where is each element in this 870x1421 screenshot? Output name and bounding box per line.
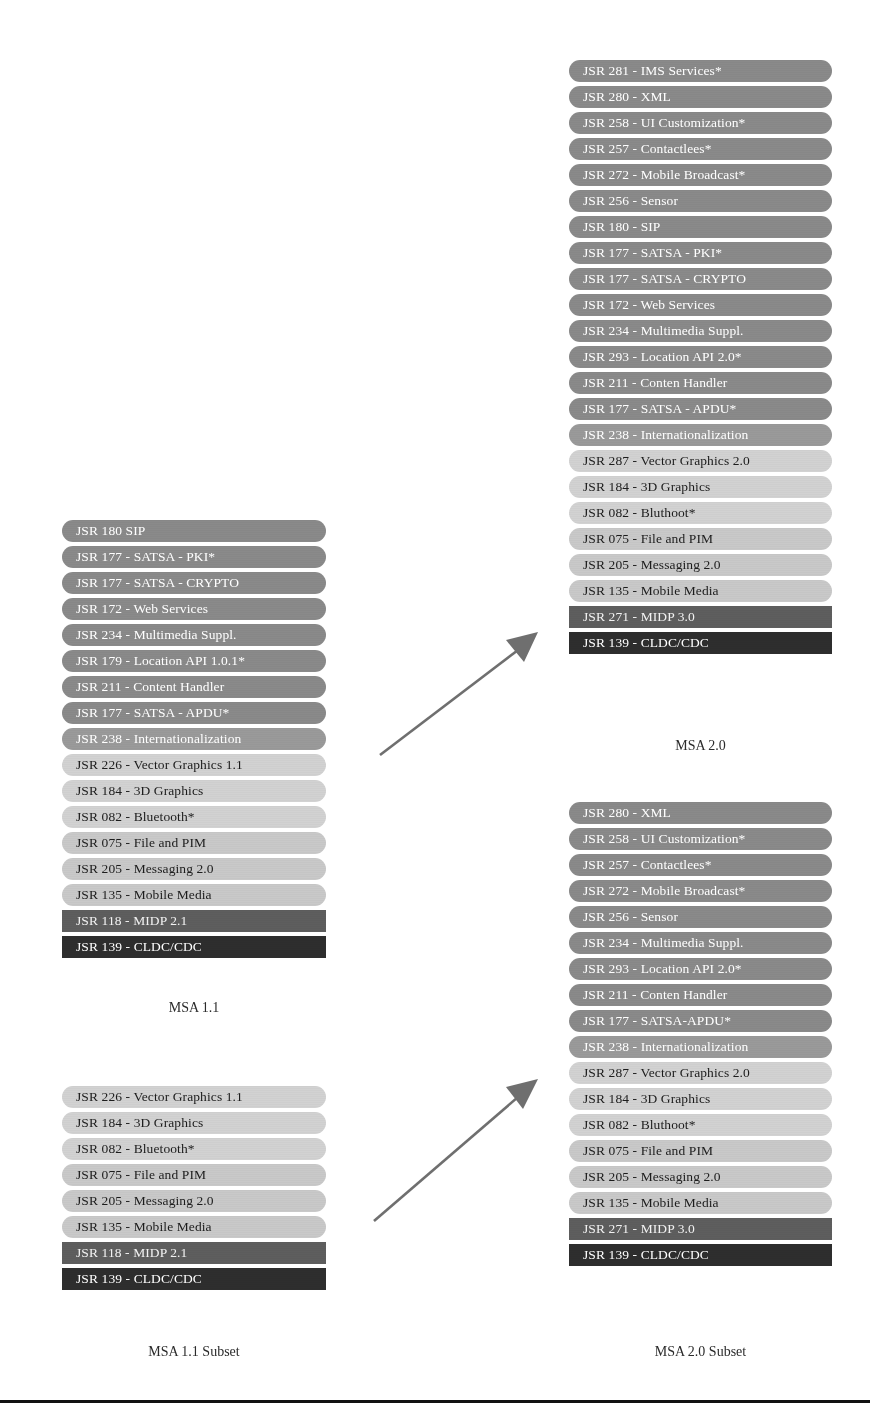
- caption-msa-11: MSA 1.1: [62, 1000, 326, 1016]
- jsr-bar[interactable]: JSR 205 - Messaging 2.0: [569, 1166, 832, 1188]
- jsr-bar[interactable]: JSR 082 - Bluetooth*: [62, 1138, 326, 1160]
- jsr-bar[interactable]: JSR 226 - Vector Graphics 1.1: [62, 754, 326, 776]
- jsr-bar[interactable]: JSR 177 - SATSA - PKI*: [569, 242, 832, 264]
- jsr-bar-label: JSR 135 - Mobile Media: [76, 1219, 212, 1235]
- jsr-bar[interactable]: JSR 238 - Internationalization: [569, 1036, 832, 1058]
- jsr-bar[interactable]: JSR 258 - UI Customization*: [569, 828, 832, 850]
- jsr-bar-label: JSR 256 - Sensor: [583, 909, 678, 925]
- jsr-bar[interactable]: JSR 287 - Vector Graphics 2.0: [569, 1062, 832, 1084]
- jsr-bar[interactable]: JSR 075 - File and PIM: [62, 832, 326, 854]
- jsr-bar-label: JSR 238 - Internationalization: [76, 731, 241, 747]
- jsr-bar-label: JSR 177 - SATSA - PKI*: [583, 245, 722, 261]
- jsr-bar[interactable]: JSR 139 - CLDC/CDC: [62, 936, 326, 958]
- jsr-bar-label: JSR 184 - 3D Graphics: [76, 1115, 203, 1131]
- jsr-bar[interactable]: JSR 075 - File and PIM: [569, 1140, 832, 1162]
- jsr-bar[interactable]: JSR 293 - Location API 2.0*: [569, 958, 832, 980]
- jsr-bar[interactable]: JSR 135 - Mobile Media: [62, 884, 326, 906]
- jsr-bar[interactable]: JSR 177 - SATSA - PKI*: [62, 546, 326, 568]
- jsr-bar[interactable]: JSR 280 - XML: [569, 86, 832, 108]
- jsr-bar-label: JSR 293 - Location API 2.0*: [583, 961, 742, 977]
- jsr-bar[interactable]: JSR 234 - Multimedia Suppl.: [569, 320, 832, 342]
- jsr-bar-label: JSR 172 - Web Services: [76, 601, 208, 617]
- jsr-bar-label: JSR 234 - Multimedia Suppl.: [583, 935, 744, 951]
- jsr-bar[interactable]: JSR 257 - Contactlees*: [569, 138, 832, 160]
- jsr-bar-label: JSR 205 - Messaging 2.0: [76, 861, 214, 877]
- jsr-bar[interactable]: JSR 177 - SATSA-APDU*: [569, 1010, 832, 1032]
- jsr-bar[interactable]: JSR 135 - Mobile Media: [569, 580, 832, 602]
- jsr-bar-label: JSR 234 - Multimedia Suppl.: [583, 323, 744, 339]
- jsr-bar-label: JSR 177 - SATSA - PKI*: [76, 549, 215, 565]
- jsr-bar-label: JSR 272 - Mobile Broadcast*: [583, 167, 745, 183]
- jsr-bar[interactable]: JSR 082 - Bluetooth*: [62, 806, 326, 828]
- jsr-bar[interactable]: JSR 211 - Conten Handler: [569, 372, 832, 394]
- jsr-bar[interactable]: JSR 271 - MIDP 3.0: [569, 606, 832, 628]
- jsr-bar[interactable]: JSR 211 - Conten Handler: [569, 984, 832, 1006]
- jsr-bar-label: JSR 281 - IMS Services*: [583, 63, 722, 79]
- jsr-bar[interactable]: JSR 139 - CLDC/CDC: [62, 1268, 326, 1290]
- footer-divider: [0, 1400, 870, 1403]
- jsr-bar-label: JSR 075 - File and PIM: [583, 531, 713, 547]
- jsr-bar[interactable]: JSR 179 - Location API 1.0.1*: [62, 650, 326, 672]
- jsr-bar[interactable]: JSR 075 - File and PIM: [569, 528, 832, 550]
- jsr-bar[interactable]: JSR 238 - Internationalization: [62, 728, 326, 750]
- jsr-bar-label: JSR 226 - Vector Graphics 1.1: [76, 757, 243, 773]
- jsr-bar[interactable]: JSR 234 - Multimedia Suppl.: [569, 932, 832, 954]
- jsr-bar[interactable]: JSR 184 - 3D Graphics: [62, 1112, 326, 1134]
- jsr-bar[interactable]: JSR 205 - Messaging 2.0: [62, 1190, 326, 1212]
- jsr-bar[interactable]: JSR 082 - Bluthoot*: [569, 1114, 832, 1136]
- jsr-bar-label: JSR 211 - Content Handler: [76, 679, 224, 695]
- jsr-bar[interactable]: JSR 180 SIP: [62, 520, 326, 542]
- jsr-bar[interactable]: JSR 172 - Web Services: [569, 294, 832, 316]
- jsr-bar-label: JSR 177 - SATSA - CRYPTO: [76, 575, 239, 591]
- jsr-bar[interactable]: JSR 177 - SATSA - CRYPTO: [62, 572, 326, 594]
- jsr-bar-label: JSR 139 - CLDC/CDC: [583, 1247, 709, 1263]
- jsr-bar[interactable]: JSR 256 - Sensor: [569, 906, 832, 928]
- jsr-bar[interactable]: JSR 256 - Sensor: [569, 190, 832, 212]
- jsr-bar-label: JSR 184 - 3D Graphics: [583, 479, 710, 495]
- jsr-bar[interactable]: JSR 280 - XML: [569, 802, 832, 824]
- jsr-bar[interactable]: JSR 272 - Mobile Broadcast*: [569, 880, 832, 902]
- jsr-bar[interactable]: JSR 234 - Multimedia Suppl.: [62, 624, 326, 646]
- jsr-bar[interactable]: JSR 258 - UI Customization*: [569, 112, 832, 134]
- jsr-bar[interactable]: JSR 271 - MIDP 3.0: [569, 1218, 832, 1240]
- jsr-bar-label: JSR 082 - Bluetooth*: [76, 1141, 195, 1157]
- jsr-bar[interactable]: JSR 287 - Vector Graphics 2.0: [569, 450, 832, 472]
- jsr-bar[interactable]: JSR 205 - Messaging 2.0: [62, 858, 326, 880]
- jsr-bar[interactable]: JSR 281 - IMS Services*: [569, 60, 832, 82]
- jsr-bar-label: JSR 184 - 3D Graphics: [76, 783, 203, 799]
- jsr-bar-label: JSR 184 - 3D Graphics: [583, 1091, 710, 1107]
- jsr-bar[interactable]: JSR 184 - 3D Graphics: [569, 476, 832, 498]
- jsr-bar[interactable]: JSR 238 - Internationalization: [569, 424, 832, 446]
- jsr-bar-label: JSR 271 - MIDP 3.0: [583, 1221, 695, 1237]
- jsr-bar-label: JSR 211 - Conten Handler: [583, 375, 727, 391]
- jsr-bar[interactable]: JSR 075 - File and PIM: [62, 1164, 326, 1186]
- jsr-bar[interactable]: JSR 205 - Messaging 2.0: [569, 554, 832, 576]
- jsr-bar[interactable]: JSR 293 - Location API 2.0*: [569, 346, 832, 368]
- jsr-bar[interactable]: JSR 082 - Bluthoot*: [569, 502, 832, 524]
- caption-msa-20-subset: MSA 2.0 Subset: [569, 1344, 832, 1360]
- jsr-bar-label: JSR 135 - Mobile Media: [76, 887, 212, 903]
- jsr-bar[interactable]: JSR 211 - Content Handler: [62, 676, 326, 698]
- jsr-bar[interactable]: JSR 177 - SATSA - CRYPTO: [569, 268, 832, 290]
- jsr-bar[interactable]: JSR 118 - MIDP 2.1: [62, 910, 326, 932]
- jsr-bar[interactable]: JSR 180 - SIP: [569, 216, 832, 238]
- jsr-bar-label: JSR 205 - Messaging 2.0: [583, 1169, 721, 1185]
- jsr-bar[interactable]: JSR 184 - 3D Graphics: [569, 1088, 832, 1110]
- arrow-lower-icon: [360, 1035, 560, 1235]
- jsr-bar-label: JSR 238 - Internationalization: [583, 427, 748, 443]
- jsr-bar-label: JSR 211 - Conten Handler: [583, 987, 727, 1003]
- jsr-bar[interactable]: JSR 177 - SATSA - APDU*: [62, 702, 326, 724]
- jsr-bar[interactable]: JSR 184 - 3D Graphics: [62, 780, 326, 802]
- jsr-bar[interactable]: JSR 177 - SATSA - APDU*: [569, 398, 832, 420]
- jsr-bar[interactable]: JSR 135 - Mobile Media: [569, 1192, 832, 1214]
- jsr-bar[interactable]: JSR 172 - Web Services: [62, 598, 326, 620]
- jsr-bar[interactable]: JSR 118 - MIDP 2.1: [62, 1242, 326, 1264]
- jsr-bar[interactable]: JSR 135 - Mobile Media: [62, 1216, 326, 1238]
- jsr-bar[interactable]: JSR 139 - CLDC/CDC: [569, 1244, 832, 1266]
- jsr-bar[interactable]: JSR 226 - Vector Graphics 1.1: [62, 1086, 326, 1108]
- jsr-bar[interactable]: JSR 257 - Contactlees*: [569, 854, 832, 876]
- stack-msa-11-subset: JSR 226 - Vector Graphics 1.1JSR 184 - 3…: [62, 1086, 326, 1294]
- jsr-bar-label: JSR 135 - Mobile Media: [583, 583, 719, 599]
- jsr-bar[interactable]: JSR 139 - CLDC/CDC: [569, 632, 832, 654]
- jsr-bar[interactable]: JSR 272 - Mobile Broadcast*: [569, 164, 832, 186]
